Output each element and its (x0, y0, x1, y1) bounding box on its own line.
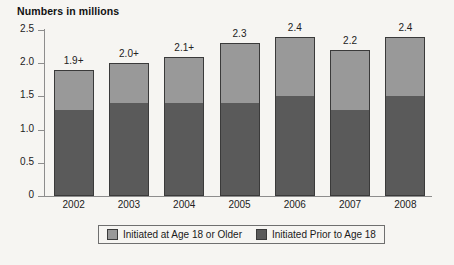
legend-item-1: Initiated Prior to Age 18 (256, 229, 376, 240)
bar-segment-initiated-18-or-older (164, 57, 204, 103)
legend-swatch-light (107, 229, 118, 240)
legend-label-dark: Initiated Prior to Age 18 (272, 229, 376, 240)
y-tick-label: 0.5 (0, 156, 34, 167)
bar-segment-initiated-prior-to-18 (54, 110, 94, 196)
x-tick-label: 2008 (375, 199, 435, 210)
y-tick-label: 0 (0, 189, 34, 200)
bar-total-label: 1.9+ (44, 55, 104, 66)
y-tick-label: 2.5 (0, 23, 34, 34)
bar-total-label: 2.4 (265, 22, 325, 33)
bar-segment-initiated-18-or-older (220, 43, 260, 103)
x-tick-label: 2002 (44, 199, 104, 210)
x-tick-label: 2003 (99, 199, 159, 210)
bar-group (164, 57, 204, 196)
legend-label-light: Initiated at Age 18 or Older (123, 229, 242, 240)
bar-segment-initiated-prior-to-18 (385, 96, 425, 196)
bar-segment-initiated-prior-to-18 (220, 103, 260, 196)
bar-group (109, 63, 149, 196)
bar-segment-initiated-prior-to-18 (330, 110, 370, 196)
x-axis-line (44, 196, 432, 197)
legend-swatch-dark (256, 229, 267, 240)
chart-legend: Initiated at Age 18 or Older Initiated P… (98, 225, 385, 244)
y-tick-label: 2.0 (0, 56, 34, 67)
x-tick-label: 2004 (154, 199, 214, 210)
bar-segment-initiated-prior-to-18 (275, 96, 315, 196)
y-tick-label: 1.5 (0, 89, 34, 100)
bar-segment-initiated-18-or-older (109, 63, 149, 103)
bar-segment-initiated-prior-to-18 (109, 103, 149, 196)
x-tick-label: 2005 (210, 199, 270, 210)
bar-segment-initiated-18-or-older (385, 37, 425, 97)
y-tick-mark (38, 196, 44, 197)
bar-segment-initiated-prior-to-18 (164, 103, 204, 196)
bar-total-label: 2.4 (375, 22, 435, 33)
bar-group (330, 50, 370, 196)
stacked-bar-chart: Numbers in millions 00.51.01.52.02.5 200… (0, 0, 454, 265)
bar-total-label: 2.0+ (99, 48, 159, 59)
bar-segment-initiated-18-or-older (330, 50, 370, 110)
x-tick-label: 2006 (265, 199, 325, 210)
bar-segment-initiated-18-or-older (275, 37, 315, 97)
bar-total-label: 2.2 (320, 35, 380, 46)
bar-total-label: 2.3 (210, 28, 270, 39)
y-tick-label: 1.0 (0, 123, 34, 134)
legend-item-0: Initiated at Age 18 or Older (107, 229, 242, 240)
x-tick-label: 2007 (320, 199, 380, 210)
bar-group (385, 37, 425, 196)
bar-group (220, 43, 260, 196)
bar-segment-initiated-18-or-older (54, 70, 94, 110)
bar-group (54, 70, 94, 196)
chart-title: Numbers in millions (17, 5, 119, 17)
bar-total-label: 2.1+ (154, 42, 214, 53)
bar-group (275, 37, 315, 196)
